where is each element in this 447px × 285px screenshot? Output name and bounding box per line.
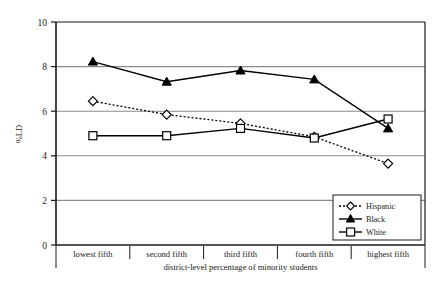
legend-marker-white-square [347,228,355,236]
y-axis-title: %LD [14,125,24,144]
y-tick-label-10: 10 [38,18,48,28]
y-tick-label-4: 4 [42,151,47,161]
x-tick-label-2: second fifth [146,249,188,259]
chart-background [0,0,447,285]
chart-legend: Hispanic Black White [333,195,421,240]
x-tick-label-1: lowest fifth [73,249,113,259]
chart-container: 10 8 6 4 2 0 %LD lowest fifth second fif… [0,0,447,285]
data-point-white-1 [89,132,97,140]
data-point-white-5 [384,115,392,123]
y-tick-label-6: 6 [42,107,47,117]
legend-label-black: Black [366,215,386,224]
x-tick-label-3: third fifth [224,249,258,259]
line-chart: 10 8 6 4 2 0 %LD lowest fifth second fif… [0,0,447,285]
x-tick-label-4: fourth fifth [295,249,334,259]
x-tick-label-5: highest fifth [367,249,409,259]
data-point-white-4 [310,134,318,142]
data-point-white-2 [163,132,171,140]
y-tick-label-8: 8 [42,62,47,72]
y-tick-label-2: 2 [42,196,47,206]
legend-label-hispanic: Hispanic [366,202,395,211]
x-axis-title: district-level percentage of minority st… [163,262,318,272]
data-point-white-3 [237,124,245,132]
y-tick-label-0: 0 [42,241,47,251]
legend-label-white: White [366,228,386,237]
